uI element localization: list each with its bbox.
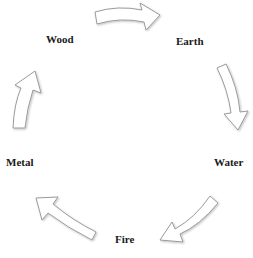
arrow-fire-to-metal: [36, 197, 96, 240]
arrow-metal-to-wood: [13, 71, 41, 128]
node-metal: Metal: [6, 156, 33, 168]
node-wood: Wood: [46, 33, 74, 45]
arrow-earth-to-water: [217, 64, 248, 130]
arrow-water-to-fire: [160, 196, 218, 242]
cycle-arrows: [0, 0, 253, 258]
node-water: Water: [214, 156, 243, 168]
node-earth: Earth: [176, 35, 204, 47]
arrow-wood-to-earth: [95, 3, 160, 30]
node-fire: Fire: [115, 233, 134, 245]
